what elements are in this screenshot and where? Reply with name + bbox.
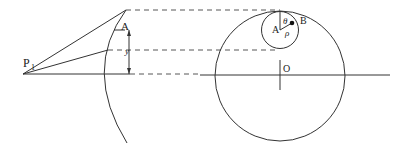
ray-middle [23,50,108,74]
label-b: B [300,15,307,26]
label-a-right: A [272,24,280,35]
geometry-diagram: P 1 A y A B θ ρ O [0,0,408,151]
label-rho: ρ [284,28,290,38]
ray-upper [23,10,126,74]
arrow-head-down-icon [127,68,131,74]
label-a-left: A [121,20,129,32]
diagram-canvas: P 1 A y A B θ ρ O [0,0,408,151]
label-theta: θ [283,16,288,26]
label-p1: P [23,56,30,70]
label-o: O [283,63,290,74]
label-p1-subscript: 1 [31,63,35,72]
label-y: y [124,46,129,56]
point-b-dot [290,21,295,26]
